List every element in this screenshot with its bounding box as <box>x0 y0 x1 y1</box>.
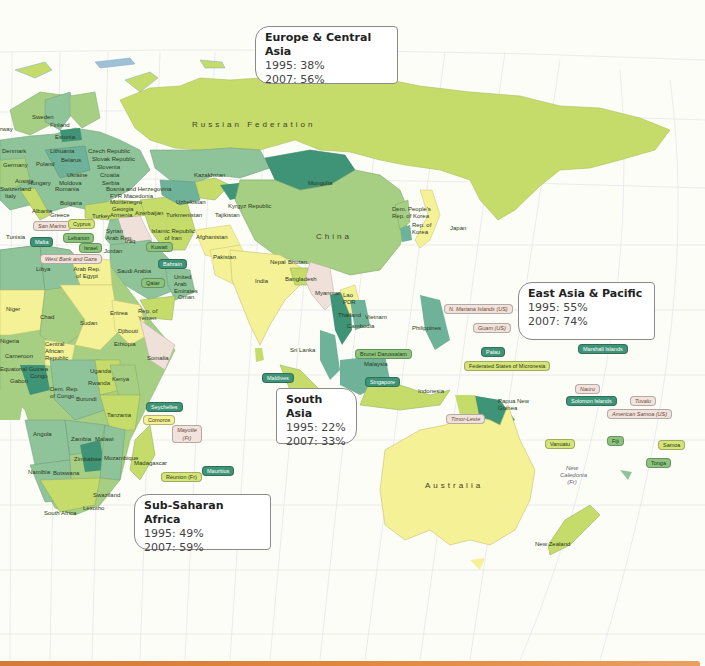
label-somalia: Somalia <box>147 355 169 362</box>
label-congo: Congo <box>30 373 48 380</box>
label-djibouti: Djibouti <box>118 328 138 335</box>
label-eq-guinea: Equatorial Guinea <box>0 366 48 373</box>
callout-east-asia-pacific: East Asia & Pacific 1995: 55% 2007: 74% <box>518 282 655 340</box>
label-romania: Romania <box>55 186 79 193</box>
label-new-caledonia: New Caledonia (Fr) <box>560 465 584 486</box>
tag-solomon-islands: Solomon Islands <box>566 396 617 406</box>
label-ethiopia: Ethiopia <box>114 341 136 348</box>
callout-1995-value: 1995: 38% <box>265 59 389 73</box>
label-libya: Libya <box>36 266 50 273</box>
label-saudi: Saudi Arabia <box>117 268 151 275</box>
tag-cyprus: Cyprus <box>68 219 95 229</box>
label-syria: Syrian Arab Rep. <box>106 228 136 242</box>
label-kazakhstan: Kazakhstan <box>194 172 225 179</box>
label-japan: Japan <box>450 225 466 232</box>
tag-mayotte: Mayotte (Fr) <box>172 425 202 443</box>
label-armenia: Armenia <box>110 212 132 219</box>
label-estonia: Estonia <box>55 134 75 141</box>
tag-lebanon: Lebanon <box>63 233 94 243</box>
label-cambodia: Cambodia <box>347 323 374 330</box>
label-chad: Chad <box>40 314 54 321</box>
label-nepal: Nepal <box>270 259 286 266</box>
callout-europe-central-asia: Europe & Central Asia 1995: 38% 2007: 56… <box>255 26 398 84</box>
label-nigeria: Nigeria <box>0 338 19 345</box>
label-albania: Albania <box>32 208 52 215</box>
label-yemen: Rep. of Yemen <box>138 308 160 322</box>
label-bangladesh: Bangladesh <box>285 276 317 283</box>
label-denmark: Denmark <box>2 148 26 155</box>
tag-seychelles: Seychelles <box>146 402 183 412</box>
callout-2007-value: 2007: 33% <box>286 435 348 449</box>
tag-tonga: Tonga <box>646 458 671 468</box>
callout-sub-saharan-africa: Sub-Saharan Africa 1995: 49% 2007: 59% <box>134 494 271 550</box>
label-png: Papua New Guinea <box>498 398 530 412</box>
callout-south-asia: South Asia 1995: 22% 2007: 33% <box>276 388 357 444</box>
label-australia: Australia <box>425 482 483 489</box>
label-oman: Oman <box>178 294 194 301</box>
label-south-africa: South Africa <box>44 510 76 517</box>
label-uae: United Arab Emirates <box>174 274 198 295</box>
label-gabon: Gabon <box>10 378 28 385</box>
tag-reunion: Réunion (Fr) <box>161 472 202 482</box>
label-bulgaria: Bulgaria <box>60 200 82 207</box>
label-swaziland: Swaziland <box>93 492 120 499</box>
label-czech: Czech Republic <box>88 148 130 155</box>
label-croatia: Croatia <box>100 172 119 179</box>
label-namibia: Namibia <box>28 469 50 476</box>
callout-title: South Asia <box>286 393 348 421</box>
callout-2007-value: 2007: 74% <box>528 315 646 329</box>
label-turkey: Turkey <box>92 213 110 220</box>
callout-2007-value: 2007: 59% <box>144 541 262 555</box>
label-rwanda: Rwanda <box>88 380 110 387</box>
tag-malta: Malta <box>30 237 53 247</box>
label-malaysia: Malaysia <box>364 361 388 368</box>
tag-marshall-islands: Marshall Islands <box>578 344 628 354</box>
label-indonesia: Indonesia <box>418 388 444 395</box>
tag-mauritius: Mauritius <box>202 466 234 476</box>
callout-title: Europe & Central Asia <box>265 31 389 59</box>
label-new-zealand: New Zealand <box>535 541 570 548</box>
tag-palau: Palau <box>481 347 505 357</box>
label-vietnam: Vietnam <box>365 314 387 321</box>
tag-tuvalu: Tuvalu <box>630 396 656 406</box>
label-finland: Finland <box>50 122 70 129</box>
label-cameroon: Cameroon <box>5 353 33 360</box>
tag-comoros: Comoros <box>143 415 175 425</box>
label-slovak: Slovak Republic <box>92 156 135 163</box>
tag-n-mariana: N. Mariana Islands (US) <box>444 304 513 314</box>
tag-maldives: Maldives <box>262 373 294 383</box>
tag-west-bank-gaza: West Bank and Gaza <box>40 254 102 264</box>
tag-timor-leste: Timor-Leste <box>446 414 485 424</box>
label-car: Central African Republic <box>45 341 71 362</box>
label-pakistan: Pakistan <box>213 254 236 261</box>
tag-singapore: Singapore <box>365 377 400 387</box>
label-malawi: Malawi <box>95 436 114 443</box>
label-jordan: Jordan <box>104 248 122 255</box>
label-russia: Russian Federation <box>192 121 315 128</box>
label-norway: rway <box>0 126 13 133</box>
label-kyrgyz: Kyrgyz Republic <box>228 203 271 210</box>
tag-san-marino: San Marino <box>33 221 71 231</box>
label-india: India <box>255 278 268 285</box>
label-montenegro: Montenegro <box>110 199 142 206</box>
label-greece: Greece <box>50 212 70 219</box>
label-egypt: Arab Rep. of Egypt <box>72 266 102 280</box>
bottom-accent-bar <box>0 661 700 666</box>
label-thailand: Thailand <box>338 312 361 319</box>
label-sweden: Sweden <box>32 114 54 121</box>
label-switzerland: Switzerland <box>0 186 31 193</box>
label-germany: Germany <box>3 162 28 169</box>
label-bhutan: Bhutan <box>288 259 307 266</box>
label-tanzania: Tanzania <box>107 412 131 419</box>
map-canvas: Russian Federation China Australia Swede… <box>0 0 705 666</box>
tag-kuwait: Kuwait <box>146 242 173 252</box>
label-niger: Niger <box>6 306 20 313</box>
label-bosnia: Bosnia and Herzegovina <box>106 186 171 193</box>
callout-1995-value: 1995: 22% <box>286 421 348 435</box>
label-tajikistan: Tajikistan <box>215 212 240 219</box>
label-eritrea: Eritrea <box>110 310 128 317</box>
label-ukraine: Ukraine <box>67 172 88 179</box>
label-mongolia: Mongolia <box>308 180 332 187</box>
tag-nauru: Nauru <box>575 384 600 394</box>
label-tunisia: Tunisia <box>6 234 25 241</box>
